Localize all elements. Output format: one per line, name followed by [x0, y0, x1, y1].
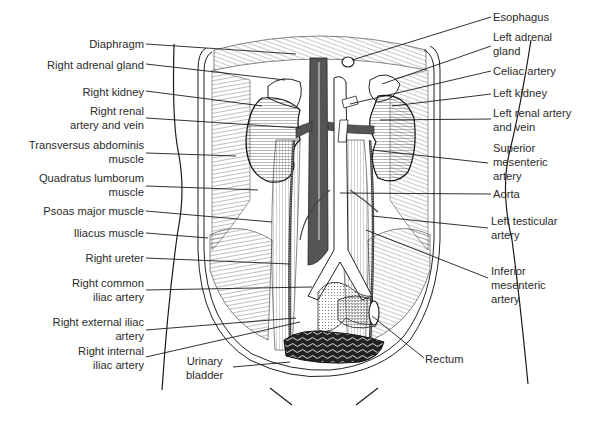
label-text: and vein	[493, 120, 571, 134]
label-text: Rectum	[425, 352, 464, 366]
label-right-common-iliac: Right common iliac artery	[72, 276, 144, 304]
label-text: Right common	[72, 276, 144, 290]
label-text: Right internal	[78, 344, 144, 358]
label-text: Left renal artery	[493, 106, 571, 120]
label-right-ureter: Right ureter	[86, 251, 144, 265]
label-psoas-major: Psoas major muscle	[43, 204, 144, 218]
label-text: iliac artery	[72, 290, 144, 304]
label-left-renal-artery-vein: Left renal artery and vein	[493, 106, 571, 134]
anatomy-figure: Diaphragm Right adrenal gland Right kidn…	[0, 0, 593, 428]
label-text: Left kidney	[493, 86, 547, 100]
label-text: artery	[491, 292, 546, 306]
label-inferior-mesenteric: Inferior mesenteric artery	[491, 264, 546, 306]
label-text: artery	[53, 329, 144, 343]
label-text: Left testicular	[491, 214, 558, 228]
label-text: muscle	[39, 185, 144, 199]
label-aorta: Aorta	[493, 187, 520, 201]
label-text: Right ureter	[86, 251, 144, 265]
label-text: bladder	[186, 368, 223, 382]
label-right-kidney: Right kidney	[82, 85, 144, 99]
label-text: Esophagus	[493, 10, 549, 24]
label-text: iliac artery	[78, 358, 144, 372]
label-left-adrenal-gland: Left adrenal gland	[493, 30, 552, 58]
label-text: artery and vein	[70, 118, 144, 132]
label-rectum: Rectum	[425, 352, 464, 366]
label-diaphragm: Diaphragm	[89, 37, 144, 51]
label-iliacus: Iliacus muscle	[74, 226, 144, 240]
label-text: Right renal	[70, 104, 144, 118]
label-text: Psoas major muscle	[43, 204, 144, 218]
label-left-testicular: Left testicular artery	[491, 214, 558, 242]
label-text: Celiac artery	[493, 64, 556, 78]
label-right-renal-artery-vein: Right renal artery and vein	[70, 104, 144, 132]
label-right-external-iliac: Right external iliac artery	[53, 315, 144, 343]
label-text: Diaphragm	[89, 37, 144, 51]
label-text: artery	[491, 228, 558, 242]
label-superior-mesenteric: Superior mesenteric artery	[493, 141, 548, 183]
label-text: Quadratus lumborum	[39, 171, 144, 185]
label-text: muscle	[29, 152, 144, 166]
label-celiac-artery: Celiac artery	[493, 64, 556, 78]
label-left-kidney: Left kidney	[493, 86, 547, 100]
label-text: mesenteric	[493, 155, 548, 169]
label-text: Iliacus muscle	[74, 226, 144, 240]
label-text: Left adrenal	[493, 30, 552, 44]
label-text: Right external iliac	[53, 315, 144, 329]
label-right-internal-iliac: Right internal iliac artery	[78, 344, 144, 372]
label-transversus-abdominis: Transversus abdominis muscle	[29, 138, 144, 166]
label-text: mesenteric	[491, 278, 546, 292]
label-text: Superior	[493, 141, 548, 155]
label-right-adrenal-gland: Right adrenal gland	[47, 58, 144, 72]
label-text: Inferior	[491, 264, 546, 278]
label-quadratus-lumborum: Quadratus lumborum muscle	[39, 171, 144, 199]
label-text: Aorta	[493, 187, 520, 201]
label-text: Urinary	[186, 354, 223, 368]
label-esophagus: Esophagus	[493, 10, 549, 24]
label-urinary-bladder: Urinary bladder	[186, 354, 223, 382]
label-text: Transversus abdominis	[29, 138, 144, 152]
label-text: Right kidney	[82, 85, 144, 99]
label-text: gland	[493, 44, 552, 58]
label-text: Right adrenal gland	[47, 58, 144, 72]
label-text: artery	[493, 169, 548, 183]
